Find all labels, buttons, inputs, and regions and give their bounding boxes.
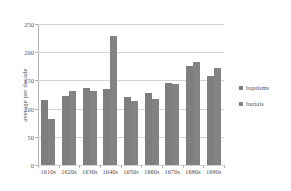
bar-burials-1670s [172, 84, 179, 165]
bar-group [100, 24, 121, 165]
x-axis-label-1690s: 1690s [203, 168, 224, 175]
gridline [38, 165, 224, 166]
bar-group [162, 24, 183, 165]
x-axis-label-1640s: 1640s [100, 168, 121, 175]
bar-group [183, 24, 204, 165]
y-tick-label: 150 [0, 77, 38, 84]
x-axis-label-1670s: 1670s [162, 168, 183, 175]
legend-label: burials [246, 100, 264, 107]
bar-burials-1610s [48, 119, 55, 165]
y-tick-label: 50 [0, 133, 38, 140]
bar-burials-1620s [69, 91, 76, 165]
bar-baptisms-1610s [41, 100, 48, 165]
legend-label: baptisms [246, 84, 269, 91]
legend-item-burials[interactable]: burials [239, 100, 269, 107]
chart-legend: baptismsburials [239, 84, 269, 107]
plot-area [38, 24, 224, 165]
bar-baptisms-1630s [83, 88, 90, 165]
x-axis-label-1620s: 1620s [59, 168, 80, 175]
bar-baptisms-1620s [62, 96, 69, 165]
bar-baptisms-1680s [186, 66, 193, 165]
bar-burials-1660s [152, 99, 159, 165]
y-axis-title-container: average per decade [8, 24, 32, 165]
chart-container: average per decade 050100150200250 1610s… [0, 0, 291, 191]
y-tick-label: 100 [0, 105, 38, 112]
bar-baptisms-1670s [165, 83, 172, 165]
x-axis-label-1610s: 1610s [38, 168, 59, 175]
y-tick-label: 200 [0, 49, 38, 56]
x-axis-label-1650s: 1650s [121, 168, 142, 175]
bar-burials-1680s [193, 62, 200, 165]
x-axis-label-1680s: 1680s [183, 168, 204, 175]
legend-swatch-icon [239, 86, 243, 90]
bar-group [121, 24, 142, 165]
y-tick-label: 0 [0, 162, 38, 169]
bar-baptisms-1690s [207, 76, 214, 165]
bar-group [203, 24, 224, 165]
bar-burials-1640s [110, 36, 117, 165]
bar-group [79, 24, 100, 165]
bar-burials-1650s [131, 101, 138, 165]
legend-item-baptisms[interactable]: baptisms [239, 84, 269, 91]
bar-baptisms-1640s [103, 89, 110, 165]
bar-baptisms-1660s [145, 93, 152, 165]
bar-burials-1690s [214, 68, 221, 165]
bar-group [59, 24, 80, 165]
bar-group [38, 24, 59, 165]
x-axis-label-1630s: 1630s [79, 168, 100, 175]
x-tick-mark [224, 165, 225, 168]
bar-burials-1630s [90, 91, 97, 165]
legend-swatch-icon [239, 102, 243, 106]
bar-baptisms-1650s [124, 97, 131, 165]
bar-groups [38, 24, 224, 165]
bar-group [141, 24, 162, 165]
x-axis-labels: 1610s1620s1630s1640s1650s1660s1670s1680s… [38, 168, 224, 175]
x-axis-label-1660s: 1660s [141, 168, 162, 175]
y-tick-label: 250 [0, 21, 38, 28]
